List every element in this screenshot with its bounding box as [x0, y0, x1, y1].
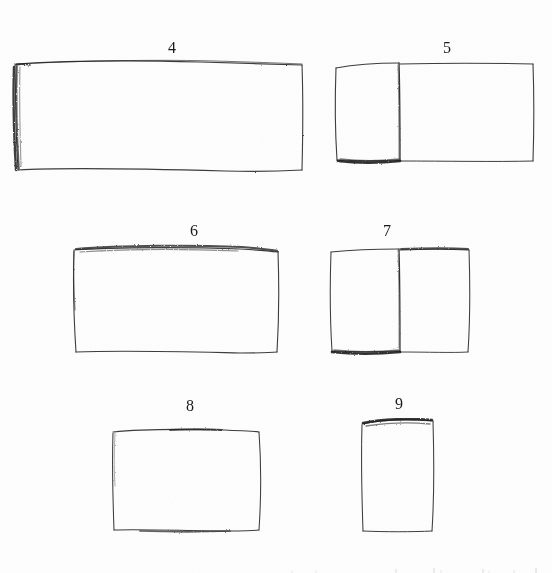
figure-label-8: 8 — [186, 398, 194, 414]
figure-label-4: 4 — [168, 40, 176, 56]
figure-label-7: 7 — [383, 223, 391, 239]
figure-label-5: 5 — [443, 40, 451, 56]
sketch-canvas — [0, 0, 552, 573]
figure-label-9: 9 — [395, 396, 403, 412]
figure-label-6: 6 — [190, 223, 198, 239]
paper-grain-overlay — [0, 0, 552, 573]
diagram-page: 4 5 6 7 8 9 — [0, 0, 552, 573]
